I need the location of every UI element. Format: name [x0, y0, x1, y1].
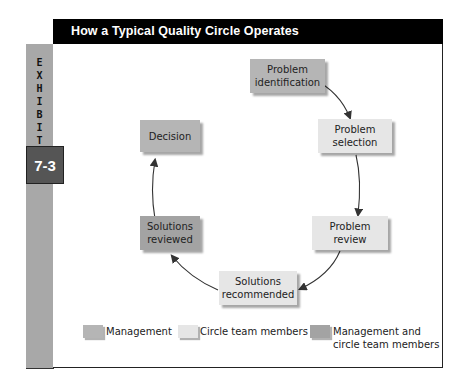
arrow-recommended-to-reviewed — [172, 256, 218, 290]
step-solutions-reviewed: Solutionsreviewed — [140, 216, 200, 250]
step-decision: Decision — [140, 120, 200, 152]
step-line: Decision — [149, 130, 192, 143]
step-problem-identification: Problemidentification — [250, 59, 325, 93]
arrow-selection-to-review — [356, 155, 360, 215]
step-line: Problem — [255, 63, 320, 76]
legend-swatch-both — [310, 325, 330, 338]
step-line: Solutions — [147, 220, 193, 233]
step-line: recommended — [222, 288, 294, 301]
legend-swatch-circle-team — [178, 325, 198, 338]
arrow-review-to-recommended — [300, 251, 340, 289]
step-line: identification — [255, 76, 320, 89]
step-line: Problem — [330, 220, 371, 233]
step-line: reviewed — [147, 233, 193, 246]
step-solutions-recommended: Solutionsrecommended — [219, 271, 297, 305]
legend-line: circle team members — [333, 338, 439, 351]
legend-label-circle-team: Circle team members — [200, 325, 308, 338]
arrow-reviewed-to-decision — [153, 160, 156, 219]
legend-label-management: Management — [106, 325, 172, 338]
step-line: review — [330, 233, 371, 246]
step-problem-review: Problemreview — [312, 216, 388, 250]
legend-line: Management and — [333, 325, 439, 338]
step-problem-selection: Problemselection — [318, 119, 392, 153]
step-line: selection — [333, 136, 378, 149]
step-line: Problem — [333, 123, 378, 136]
step-line: Solutions — [222, 275, 294, 288]
legend-label-both: Management and circle team members — [333, 325, 439, 351]
legend-swatch-management — [83, 325, 103, 338]
